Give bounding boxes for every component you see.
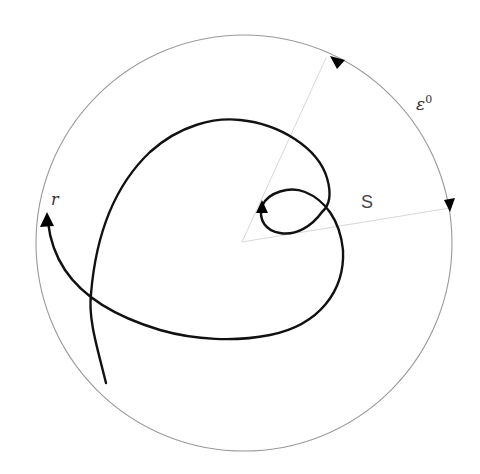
spiral-curve: [48, 119, 343, 383]
s-label: S: [361, 192, 373, 212]
epsilon-label: ε0: [416, 93, 432, 114]
r-label: r: [51, 190, 60, 209]
arc-arrowhead-lower-icon: [444, 198, 455, 212]
arc-arrowhead-upper-icon: [330, 56, 345, 69]
radial-line-right: [242, 208, 450, 242]
radial-line-upper: [242, 58, 326, 242]
spiral-arrowhead-outer-icon: [40, 212, 54, 227]
spiral-diagram: ε0 S r: [0, 0, 480, 474]
